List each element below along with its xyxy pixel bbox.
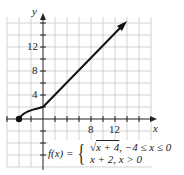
x-tick-8: 8	[88, 124, 94, 135]
function-name: f(x) =	[48, 147, 73, 159]
y-tick-8: 8	[32, 65, 38, 76]
function-definition: f(x) = { √x + 4, −4 ≤ x ≤ 0 x + 2, x > 0	[48, 140, 171, 166]
x-axis-label: x	[153, 123, 158, 134]
x-tick-12: 12	[109, 124, 120, 135]
y-tick-4: 4	[32, 89, 38, 100]
y-tick-12: 12	[27, 41, 38, 52]
case-1: √x + 4, −4 ≤ x ≤ 0	[90, 141, 171, 153]
case-2: x + 2, x > 0	[90, 153, 171, 165]
closed-dot	[16, 116, 22, 122]
y-axis-label: y	[32, 6, 37, 17]
radicand: x + 4	[96, 141, 119, 153]
case-1-condition: , −4 ≤ x ≤ 0	[119, 141, 171, 153]
cases: √x + 4, −4 ≤ x ≤ 0 x + 2, x > 0	[90, 141, 171, 165]
brace: {	[78, 140, 85, 166]
